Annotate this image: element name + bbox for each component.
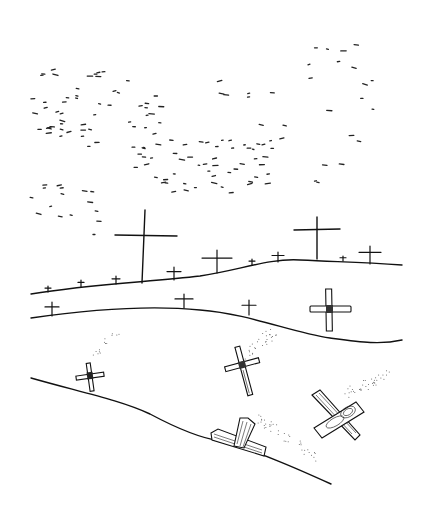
illustration-canvas xyxy=(0,0,426,523)
falling-cross-middle xyxy=(220,342,267,399)
tumbling-cross-right xyxy=(312,390,364,440)
dust-trail-1 xyxy=(93,333,120,355)
dust-trail-2 xyxy=(245,329,277,359)
tall-cross-right xyxy=(294,217,340,259)
sky-birds xyxy=(30,45,374,235)
dust-trail-3 xyxy=(258,415,317,462)
front-slope xyxy=(31,378,331,484)
tilted-cross-small xyxy=(74,361,106,393)
middle-hill xyxy=(31,308,402,343)
plank-cross-middle xyxy=(310,289,351,331)
graveyard-hills-drawing xyxy=(0,0,426,523)
toppled-cross-slope xyxy=(211,418,266,456)
dust-trail-4 xyxy=(344,370,389,398)
